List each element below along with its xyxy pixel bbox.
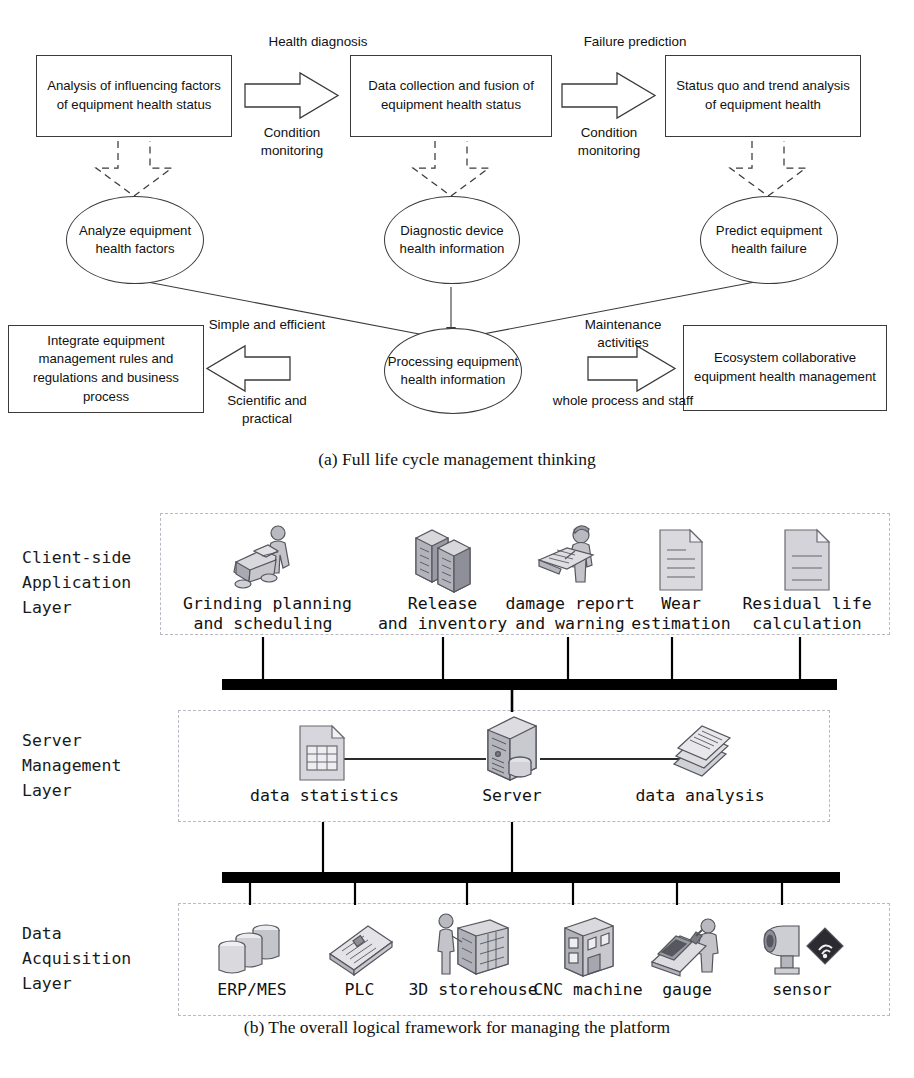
ellipse-label: Analyze equipment health factors: [67, 222, 203, 259]
node-residual-life: Residual life calculation: [732, 520, 882, 634]
box-label: Integrate equipment management rules and…: [13, 332, 199, 407]
arrow-label-health-diagnosis: Health diagnosis: [218, 33, 418, 51]
database-cylinders-icon: [188, 910, 316, 980]
arrow-label-text: Condition monitoring: [578, 125, 641, 158]
node-data-statistics: data statistics: [250, 718, 396, 806]
node-label: Server: [452, 786, 572, 806]
caption-panel-a: (a) Full life cycle management thinking: [0, 449, 914, 470]
layer-label-server-management: Server Management Layer: [22, 729, 121, 803]
arrow-label-text: Scientific and practical: [227, 393, 307, 426]
arrow-label-condition-monitoring-1: Condition monitoring: [236, 124, 348, 159]
node-sensor: sensor: [742, 908, 862, 1000]
caption-text: (a) Full life cycle management thinking: [318, 449, 595, 469]
worker-grinding-machine-icon: [183, 520, 343, 594]
arrow-label-text: Simple and efficient: [209, 317, 326, 332]
node-release-inventory: Release and inventory: [375, 520, 510, 634]
node-data-analysis: data analysis: [625, 716, 775, 806]
camera-sensor-icon: [742, 908, 862, 980]
arrow-label-text: Failure prediction: [584, 34, 687, 49]
box-data-collection-fusion: Data collection and fusion of equipment …: [350, 55, 552, 137]
arrow-label-text: Maintenance activities: [585, 317, 662, 350]
arrow-label-condition-monitoring-2: Condition monitoring: [553, 124, 665, 159]
arrow-label-failure-prediction: Failure prediction: [535, 33, 735, 51]
arrow-label-text: Condition monitoring: [261, 125, 324, 158]
ellipse-label: Processing equipment health information: [385, 353, 521, 390]
arrow-label-scientific-practical: Scientific and practical: [207, 392, 327, 427]
box-status-quo-trend: Status quo and trend analysis of equipme…: [665, 55, 861, 137]
box-ecosystem-collaborative: Ecosystem collaborative equipment health…: [683, 325, 887, 411]
node-label: Wear estimation: [625, 594, 737, 634]
arrow-label-text: Health diagnosis: [268, 34, 367, 49]
node-label: ERP/MES: [188, 980, 316, 1000]
node-label: damage report and warning: [500, 594, 640, 634]
node-gauge: gauge: [632, 908, 742, 1000]
box-analysis-influencing-factors: Analysis of influencing factors of equip…: [36, 55, 232, 137]
document-icon: [732, 520, 882, 594]
document-icon: [625, 520, 737, 594]
arrow-label-simple-efficient: Simple and efficient: [207, 316, 327, 334]
node-label: data analysis: [625, 786, 775, 806]
node-label: Grinding planning and scheduling: [183, 594, 343, 634]
arrow-label-whole-process-staff: whole process and staff: [548, 392, 698, 410]
caption-text: (b) The overall logical framework for ma…: [244, 1017, 670, 1037]
inspector-gauge-icon: [632, 908, 742, 980]
figure-canvas: Analysis of influencing factors of equip…: [0, 0, 914, 1078]
node-label: PLC: [312, 980, 407, 1000]
node-label: data statistics: [250, 786, 396, 806]
node-damage-report: damage report and warning: [500, 520, 640, 634]
box-label: Data collection and fusion of equipment …: [355, 77, 547, 114]
ellipse-label: Predict equipment health failure: [701, 222, 837, 259]
server-tower-icon: [452, 712, 572, 786]
plc-board-icon: [312, 910, 407, 980]
node-label: Residual life calculation: [732, 594, 882, 634]
spreadsheet-document-icon: [250, 718, 396, 786]
node-label: gauge: [632, 980, 742, 1000]
ellipse-predict-health-failure: Predict equipment health failure: [700, 196, 838, 284]
layer-label-client-side-application: Client-side Application Layer: [22, 546, 131, 620]
ellipse-processing-health-info: Processing equipment health information: [384, 328, 522, 414]
stacked-papers-icon: [625, 716, 775, 786]
box-integrate-management-rules: Integrate equipment management rules and…: [8, 325, 204, 413]
node-wear-estimation: Wear estimation: [625, 520, 737, 634]
node-server: Server: [452, 712, 572, 806]
server-stack-icon: [375, 520, 510, 594]
box-label: Status quo and trend analysis of equipme…: [670, 77, 856, 114]
person-reading-report-icon: [500, 520, 640, 594]
node-erp-mes: ERP/MES: [188, 910, 316, 1000]
node-plc: PLC: [312, 910, 407, 1000]
layer-label-data-acquisition: Data Acquisition Layer: [22, 922, 131, 996]
node-label: Release and inventory: [375, 594, 510, 634]
ellipse-label: Diagnostic device health information: [385, 222, 519, 259]
box-label: Ecosystem collaborative equipment health…: [688, 349, 882, 386]
arrow-label-text: whole process and staff: [553, 393, 693, 408]
node-grinding-planning: Grinding planning and scheduling: [183, 520, 343, 634]
node-label: sensor: [742, 980, 862, 1000]
ellipse-diagnostic-device-info: Diagnostic device health information: [384, 196, 520, 284]
caption-panel-b: (b) The overall logical framework for ma…: [0, 1017, 914, 1038]
ellipse-analyze-health-factors: Analyze equipment health factors: [66, 196, 204, 284]
arrow-label-maintenance-activities: Maintenance activities: [558, 316, 688, 351]
box-label: Analysis of influencing factors of equip…: [41, 77, 227, 114]
